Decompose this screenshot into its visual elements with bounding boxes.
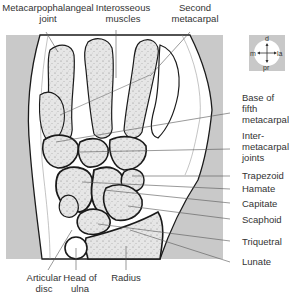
label-line: Head of <box>58 272 102 283</box>
label-line: joint <box>2 13 94 24</box>
label-hamate: Hamate <box>242 183 275 194</box>
label-line: Metacarpophalangeal <box>2 2 94 13</box>
compass-dorsal: d <box>265 35 269 42</box>
label-triquetral: Triquetral <box>242 236 282 247</box>
label-line: Lunate <box>242 256 271 267</box>
label-intermetacarpal-joints: Inter- metacarpal joints <box>242 130 289 163</box>
label-line: Base of <box>242 92 289 103</box>
compass-lateral: la <box>277 50 282 57</box>
label-interosseous: Interosseous muscles <box>90 2 156 24</box>
label-line: Capitate <box>242 198 277 209</box>
bone-trapezium <box>78 139 108 167</box>
label-line: Scaphoid <box>242 214 282 225</box>
label-line: Trapezoid <box>242 170 284 181</box>
label-base-fifth-metacarpal: Base of fifth metacarpal <box>242 92 289 125</box>
label-trapezoid: Trapezoid <box>242 170 284 181</box>
label-capitate: Capitate <box>242 198 277 209</box>
label-line: metacarpal <box>242 114 289 125</box>
label-line: Inter- <box>242 130 289 141</box>
compass-medial: m <box>250 50 256 57</box>
label-mcp-joint: Metacarpophalangeal joint <box>2 2 94 24</box>
label-second-metacarpal: Second metacarpal <box>160 2 230 24</box>
label-lunate: Lunate <box>242 256 271 267</box>
label-scaphoid: Scaphoid <box>242 214 282 225</box>
label-line: Triquetral <box>242 236 282 247</box>
label-line: muscles <box>90 13 156 24</box>
label-radius: Radius <box>104 272 148 283</box>
label-line: Radius <box>104 272 148 283</box>
label-line: Hamate <box>242 183 275 194</box>
label-line: fifth <box>242 103 289 114</box>
label-line: joints <box>242 152 289 163</box>
label-line: ulna <box>58 283 102 294</box>
orientation-compass-icon: d pr m la <box>249 35 285 71</box>
label-line: metacarpal <box>242 141 289 152</box>
bone-lunate <box>77 209 110 234</box>
label-line: Second <box>160 2 230 13</box>
label-line: Interosseous <box>90 2 156 13</box>
label-head-of-ulna: Head of ulna <box>58 272 102 294</box>
label-line: metacarpal <box>160 13 230 24</box>
bone-scaphoid <box>59 195 78 217</box>
compass-proximal: pr <box>263 64 269 71</box>
